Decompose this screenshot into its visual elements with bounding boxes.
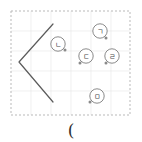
point-digeut-label: ㄷ bbox=[83, 52, 90, 61]
point-nieun-dot bbox=[64, 49, 67, 52]
point-nieun-label: ㄴ bbox=[55, 40, 62, 49]
figure-root: ㄱㄴㄷㄹㅁ ( bbox=[0, 0, 142, 142]
point-digeut-dot bbox=[79, 62, 82, 65]
point-rieul-dot bbox=[105, 62, 108, 65]
point-mieum-dot bbox=[89, 101, 92, 104]
point-giyeok-dot bbox=[105, 37, 108, 40]
point-giyeok-label: ㄱ bbox=[97, 27, 104, 36]
point-mieum-label: ㅁ bbox=[94, 92, 101, 101]
point-rieul-label: ㄹ bbox=[109, 52, 116, 61]
diagram-canvas: ㄱㄴㄷㄹㅁ ( bbox=[0, 0, 142, 142]
paren-mark: ( bbox=[68, 120, 75, 140]
